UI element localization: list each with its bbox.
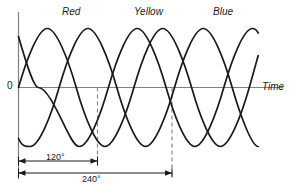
dimension-label-120deg: 120° — [46, 153, 65, 162]
curve-label-blue: Blue — [213, 7, 233, 17]
waveform-plot — [0, 0, 293, 191]
curve-label-red: Red — [62, 7, 80, 17]
x-axis-label-time: Time — [262, 82, 284, 92]
dimension-label-240deg: 240° — [82, 175, 101, 184]
three-phase-waveform-figure: Red Yellow Blue Time 0 120° 240° — [0, 0, 293, 191]
curve-label-yellow: Yellow — [134, 7, 163, 17]
origin-label-zero: 0 — [7, 81, 13, 91]
